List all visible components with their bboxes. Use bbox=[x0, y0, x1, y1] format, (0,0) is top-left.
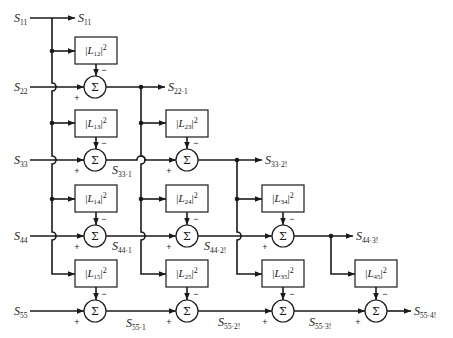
intermediate-label-s44-2: S44·2! bbox=[204, 239, 226, 255]
box-L23: |L23|2 bbox=[166, 110, 208, 149]
bus-column-3 bbox=[237, 160, 262, 274]
intermediate-label-s55-3: S55·3! bbox=[309, 315, 331, 331]
bus-column-2 bbox=[141, 87, 166, 274]
sigma-icon: Σ bbox=[183, 154, 191, 167]
input-label-s33: S33 bbox=[14, 153, 28, 169]
sum-junction-r3-c2: Σ + − bbox=[166, 138, 198, 176]
intermediate-label-s33-1: S33·1 bbox=[112, 163, 132, 179]
minus-sign: − bbox=[193, 138, 198, 148]
box-L34: |L34|2 bbox=[262, 185, 304, 225]
minus-sign: − bbox=[101, 138, 106, 148]
plus-sign: + bbox=[166, 166, 171, 176]
sigma-icon: Σ bbox=[372, 305, 380, 318]
minus-sign: − bbox=[101, 65, 106, 75]
plus-sign: + bbox=[262, 317, 267, 327]
sum-junction-r4-c2: Σ + − bbox=[166, 214, 198, 252]
intermediate-label-s44-1: S44·1 bbox=[112, 239, 132, 255]
sum-junction-r5-c4: Σ + − bbox=[355, 289, 387, 327]
sigma-icon: Σ bbox=[183, 230, 191, 243]
bus-column-4 bbox=[331, 236, 355, 274]
box-L35: |L35|2 bbox=[262, 260, 304, 300]
intermediate-label-s55-2: S55·2! bbox=[218, 315, 240, 331]
output-label-s22-1: S22·1 bbox=[168, 80, 188, 96]
box-L13: |L13|2 bbox=[75, 110, 117, 149]
box-L24: |L24|2 bbox=[166, 185, 208, 225]
signal-flow-diagram: |L12|2 |L13|2 |L14|2 |L15|2 |L23|2 |L24|… bbox=[0, 0, 453, 338]
box-L45: |L45|2 bbox=[355, 260, 397, 300]
plus-sign: + bbox=[74, 242, 79, 252]
input-label-s22: S22 bbox=[14, 80, 28, 96]
sum-junction-r5-c3: Σ + − bbox=[262, 289, 294, 327]
intermediate-label-s55-1: S55·1 bbox=[126, 316, 146, 332]
input-label-s11: S11 bbox=[14, 11, 27, 27]
plus-sign: + bbox=[74, 317, 79, 327]
minus-sign: − bbox=[101, 214, 106, 224]
plus-sign: + bbox=[262, 242, 267, 252]
output-label-s33-2: S33·2! bbox=[265, 153, 287, 169]
input-label-s55: S55 bbox=[14, 304, 28, 320]
sum-junction-r5-c2: Σ + − bbox=[166, 289, 198, 327]
box-L15: |L15|2 bbox=[75, 260, 117, 300]
output-label-s55-4: S55·4! bbox=[414, 304, 436, 320]
sum-junction-r3-c1: Σ + − bbox=[74, 138, 106, 176]
input-label-s44: S44 bbox=[14, 229, 28, 245]
plus-sign: + bbox=[74, 93, 79, 103]
row-3-wires bbox=[30, 156, 262, 160]
sigma-icon: Σ bbox=[91, 154, 99, 167]
sum-junction-r4-c3: Σ + − bbox=[262, 214, 294, 252]
sum-junction-r2-c1: Σ + − bbox=[74, 65, 106, 103]
box-L12: |L12|2 bbox=[75, 37, 117, 76]
box-L25: |L25|2 bbox=[166, 260, 208, 300]
minus-sign: − bbox=[289, 289, 294, 299]
output-label-s44-3: S44·3! bbox=[356, 229, 378, 245]
sum-junction-r4-c1: Σ + − bbox=[74, 214, 106, 252]
minus-sign: − bbox=[101, 289, 106, 299]
output-label-s11: S11 bbox=[78, 11, 91, 27]
plus-sign: + bbox=[166, 242, 171, 252]
plus-sign: + bbox=[74, 166, 79, 176]
sigma-icon: Σ bbox=[91, 81, 99, 94]
sigma-icon: Σ bbox=[183, 305, 191, 318]
sum-junction-r5-c1: Σ + − bbox=[74, 289, 106, 327]
minus-sign: − bbox=[382, 289, 387, 299]
minus-sign: − bbox=[193, 289, 198, 299]
minus-sign: − bbox=[289, 214, 294, 224]
sigma-icon: Σ bbox=[279, 230, 287, 243]
box-L14: |L14|2 bbox=[75, 185, 117, 225]
plus-sign: + bbox=[166, 317, 171, 327]
sigma-icon: Σ bbox=[279, 305, 287, 318]
sigma-icon: Σ bbox=[91, 305, 99, 318]
plus-sign: + bbox=[355, 317, 360, 327]
sigma-icon: Σ bbox=[91, 230, 99, 243]
minus-sign: − bbox=[193, 214, 198, 224]
